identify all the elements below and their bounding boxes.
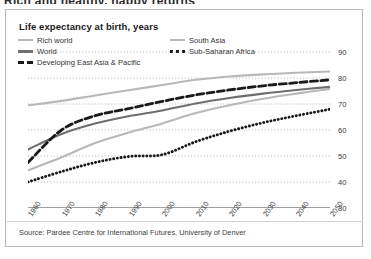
chart-card: Life expectancy at birth, years Rich wor…: [5, 9, 363, 247]
chart-svg: [28, 46, 330, 208]
series-line-sub-saharan-africa: [28, 109, 330, 182]
clipped-headline: Rich and healthy, happy returns: [0, 0, 371, 4]
legend-item-rich-world[interactable]: Rich world: [18, 36, 72, 45]
legend-item-south-asia[interactable]: South Asia: [170, 36, 225, 45]
y-axis-label-70: 70: [338, 100, 346, 109]
y-axis-label-90: 90: [338, 48, 346, 57]
source-divider: [7, 221, 363, 222]
legend-label-rich-world: Rich world: [37, 36, 72, 45]
series-line-rich-world: [28, 72, 330, 106]
chart-title: Life expectancy at birth, years: [19, 21, 158, 32]
chart-plot-area: [28, 46, 330, 208]
legend-label-south-asia: South Asia: [189, 36, 225, 45]
y-axis-label-80: 80: [338, 74, 346, 83]
chart-source: Source: Pardee Centre for International …: [19, 228, 246, 237]
clipped-headline-text: Rich and healthy, happy returns: [0, 0, 371, 4]
y-axis-label-40: 40: [338, 178, 346, 187]
y-axis-label-50: 50: [338, 152, 346, 161]
y-axis-label-60: 60: [338, 126, 346, 135]
